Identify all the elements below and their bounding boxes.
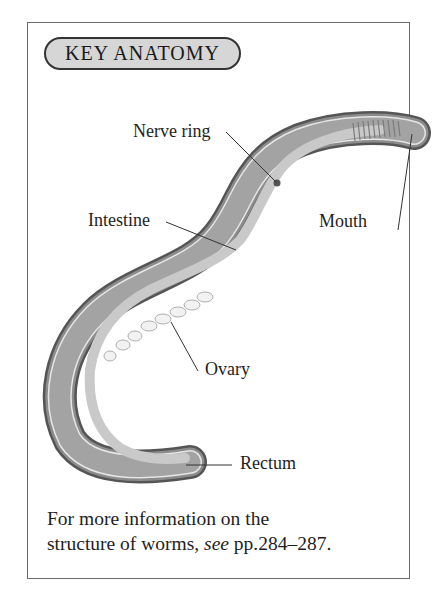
- note-line-2: structure of worms, see pp.284–287.: [47, 531, 331, 556]
- label-intestine: Intestine: [88, 210, 150, 231]
- ovary-leader: [171, 322, 198, 371]
- label-nerve-ring: Nerve ring: [133, 121, 210, 142]
- cross-reference-note: For more information on the structure of…: [47, 506, 331, 556]
- note-line-1: For more information on the: [47, 506, 331, 531]
- worm-illustration: [0, 0, 434, 593]
- label-mouth: Mouth: [319, 211, 367, 232]
- mouth-leader: [398, 134, 412, 230]
- label-ovary: Ovary: [205, 359, 250, 380]
- label-rectum: Rectum: [240, 453, 296, 474]
